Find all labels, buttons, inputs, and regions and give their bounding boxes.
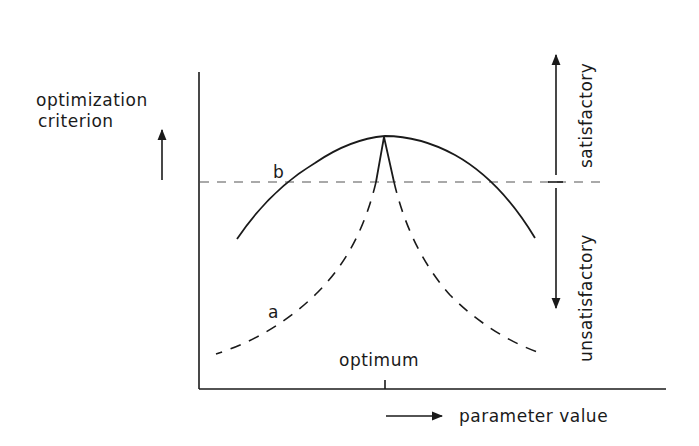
x-axis-label: parameter value: [459, 406, 608, 426]
optimum-label: optimum: [339, 350, 419, 370]
unsatisfactory-label: unsatisfactory: [576, 234, 596, 362]
curve-b-label: b: [273, 162, 284, 182]
y-axis-label-line2: criterion: [38, 111, 114, 131]
satisfactory-label: satisfactory: [576, 63, 596, 168]
curve-a-right: [394, 182, 540, 353]
curve-b: [237, 136, 535, 239]
curve-a: [216, 182, 376, 354]
optimization-diagram: optimization criterion b a optimum param…: [0, 0, 699, 446]
curve-a-label: a: [268, 302, 279, 322]
curve-a-peak: [376, 137, 394, 182]
y-axis-label-line1: optimization: [36, 90, 148, 110]
